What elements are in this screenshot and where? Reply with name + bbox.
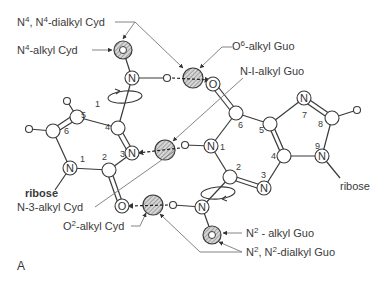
label-o6-alkyl-guo: O6-alkyl Guo [232,39,295,52]
n4-substituent-ring [114,41,132,59]
guo-num-7: 7 [302,110,307,120]
guo-num-6: 6 [238,120,243,130]
hbond-n3-site [138,140,180,160]
svg-text:N: N [260,182,268,194]
base-pair-diagram: N N N O O N N N N N [0,0,390,282]
guo-ribose-label: ribose [340,180,370,192]
guo-n1-atom: N [204,139,218,153]
guo-num-2: 2 [236,162,241,172]
cyd-n4-atom: N [125,71,139,85]
leader-lines [92,22,243,252]
guo-num-5: 5 [259,125,264,135]
cyd-num-1: 1 [80,154,85,164]
cyd-num-2: 2 [102,152,107,162]
cyd-num-3: 3 [120,149,125,159]
guo-o6-atom: O [206,77,220,91]
guo-n9-atom: N [315,149,329,163]
svg-text:N: N [198,201,206,213]
n2-substituent-ring [203,226,221,244]
cyd-num-5: 5 [81,110,86,120]
hbond-o2-site [128,195,168,215]
guo-num-9: 9 [315,141,320,151]
label-o2-alkyl-cyd: O2-alkyl Cyd [63,219,124,232]
label-n3-alkyl-cyd: N-3-alkyl Cyd [17,201,83,213]
cyd-num-4: 4 [105,122,110,132]
label-n4-n4-dialkyl-cyd: N4, N4-dialkyl Cyd [17,15,105,28]
cyd-ring-numbers: 1 [95,99,100,109]
label-n2-n2-dialkyl-guo: N2, N2-dialkyl Guo [246,245,335,258]
rotation-arrow-n2 [201,186,236,201]
svg-text:N: N [207,140,215,152]
cyd-o2-atom: O [115,199,129,213]
guo-n3-atom: N [257,181,271,195]
svg-text:O: O [209,78,218,90]
panel-label: A [17,259,25,273]
svg-text:N: N [318,150,326,162]
label-n4-alkyl-cyd: N4-alkyl Cyd [17,43,78,56]
cyd-ribose-label: ribose [25,187,58,199]
svg-text:1: 1 [95,99,100,109]
guo-num-1: 1 [220,142,225,152]
hbond-o6-site [172,68,210,88]
guo-n2-atom: N [195,200,209,214]
label-n2-alkyl-guo: N2 - alkyl Guo [246,226,314,239]
label-n1-alkyl-guo: N-I-alkyl Guo [240,65,304,77]
svg-text:N: N [128,72,136,84]
guo-num-4: 4 [271,151,276,161]
svg-text:N: N [66,162,74,174]
guo-num-8: 8 [318,119,323,129]
guo-n7-atom: N [297,91,311,105]
cyd-n3-atom: N [125,146,139,160]
guo-num-3: 3 [261,170,266,180]
cyd-n1-atom: N [63,161,77,175]
svg-text:O: O [118,200,127,212]
cyd-num-6: 6 [64,126,69,136]
svg-text:N: N [300,92,308,104]
svg-text:N: N [128,147,136,159]
